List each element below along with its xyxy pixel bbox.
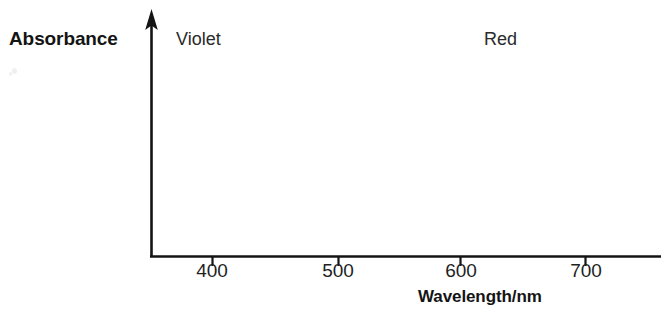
y-axis — [145, 9, 158, 256]
y-axis-title: Absorbance — [9, 29, 118, 48]
x-tick-label-700: 700 — [570, 261, 602, 280]
x-tick-label-500: 500 — [322, 261, 354, 280]
figure-canvas: Absorbance Violet Red 400 500 600 700 Wa… — [0, 0, 670, 311]
x-axis-title: Wavelength/nm — [418, 288, 542, 305]
x-tick-label-400: 400 — [196, 261, 228, 280]
x-tick-label-600: 600 — [445, 261, 477, 280]
red-region-label: Red — [484, 30, 517, 48]
violet-region-label: Violet — [176, 30, 221, 48]
